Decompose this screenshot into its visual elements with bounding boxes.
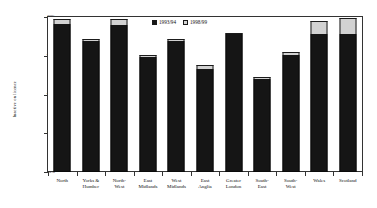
chart-legend: 1993/94 1998/99 (152, 20, 207, 25)
bar-stack[interactable] (139, 55, 156, 172)
x-category-label: Scotland (330, 178, 366, 184)
x-tick-mark (77, 172, 78, 176)
bar-segment-1993-94[interactable] (254, 79, 271, 172)
bar-group[interactable] (105, 17, 134, 172)
x-tick-mark (191, 172, 192, 176)
bar-stack[interactable] (196, 65, 213, 172)
x-tick-mark (333, 172, 334, 176)
bar-stack[interactable] (311, 21, 328, 173)
bar-stack[interactable] (168, 39, 185, 172)
bar-segment-1993-94[interactable] (339, 34, 356, 172)
bar-segment-1993-94[interactable] (54, 24, 71, 172)
bar-group[interactable] (48, 17, 77, 172)
x-tick-mark (305, 172, 306, 176)
bar-stack[interactable] (82, 39, 99, 172)
bar-segment-1993-94[interactable] (111, 25, 128, 172)
legend-item-1993-94: 1993/94 (152, 20, 176, 25)
x-category-label-line: Scotland (330, 178, 366, 184)
bar-stack[interactable] (282, 52, 299, 172)
legend-label-1998-99: 1998/99 (190, 20, 207, 25)
bar-segment-1993-94[interactable] (139, 57, 156, 172)
bar-group[interactable] (248, 17, 277, 172)
bar-stack[interactable] (339, 18, 356, 172)
y-axis-title: Inactive on licence (13, 53, 18, 145)
bar-segment-1993-94[interactable] (82, 41, 99, 172)
legend-swatch-light-icon (183, 20, 188, 25)
legend-swatch-dark-icon (152, 20, 157, 25)
x-tick-mark (362, 172, 363, 176)
bar-stack[interactable] (54, 19, 71, 172)
bar-group[interactable] (219, 17, 248, 172)
x-category-label-line: West (273, 184, 309, 190)
bar-segment-1998-99[interactable] (311, 21, 328, 34)
x-tick-mark (162, 172, 163, 176)
bar-group[interactable] (276, 17, 305, 172)
x-tick-mark (48, 172, 49, 176)
bar-segment-1993-94[interactable] (311, 34, 328, 172)
x-tick-mark (219, 172, 220, 176)
bar-stack[interactable] (254, 77, 271, 172)
bar-group[interactable] (77, 17, 106, 172)
x-tick-mark (105, 172, 106, 176)
x-tick-mark (276, 172, 277, 176)
x-tick-mark (248, 172, 249, 176)
bar-group[interactable] (333, 17, 362, 172)
bar-segment-1993-94[interactable] (282, 55, 299, 172)
stacked-bar-chart: Inactive on licence 0%10%20%30%40% North… (0, 0, 377, 208)
bar-segment-1993-94[interactable] (196, 69, 213, 172)
bar-group[interactable] (134, 17, 163, 172)
bar-group[interactable] (162, 17, 191, 172)
bar-group[interactable] (305, 17, 334, 172)
bar-segment-1993-94[interactable] (168, 41, 185, 172)
bar-stack[interactable] (225, 33, 242, 172)
legend-item-1998-99: 1998/99 (183, 20, 207, 25)
legend-label-1993-94: 1993/94 (159, 20, 176, 25)
bar-segment-1998-99[interactable] (339, 18, 356, 34)
bar-group[interactable] (191, 17, 220, 172)
bars-layer (48, 17, 362, 172)
bar-stack[interactable] (111, 19, 128, 172)
bar-segment-1993-94[interactable] (225, 34, 242, 172)
x-tick-mark (134, 172, 135, 176)
